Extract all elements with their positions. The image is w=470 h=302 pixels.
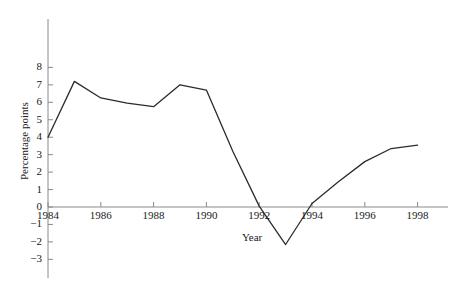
y-tick-label: −2 [8,236,42,247]
plot-area [0,0,470,302]
x-tick-label: 1998 [398,210,438,221]
x-tick-label: 1988 [134,210,174,221]
line-chart: −3−2−1012345678 198419861988199019921994… [0,0,470,302]
y-tick-marks [48,67,53,259]
y-axis-title: Percentage points [18,102,30,180]
x-tick-marks [48,202,418,207]
x-tick-label: 1994 [292,210,332,221]
x-tick-label: 1992 [239,210,279,221]
x-tick-label: 1990 [186,210,226,221]
x-tick-label: 1984 [28,210,68,221]
y-tick-label: −3 [8,253,42,264]
y-tick-label: 8 [8,61,42,72]
y-tick-label: 1 [8,184,42,195]
x-tick-label: 1986 [81,210,121,221]
x-tick-label: 1996 [345,210,385,221]
y-tick-label: 7 [8,79,42,90]
x-axis-title: Year [242,231,262,243]
